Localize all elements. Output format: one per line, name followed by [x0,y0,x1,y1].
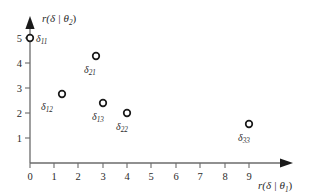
data-point-d21[interactable]: δ21 [84,53,99,78]
x-axis-title-body: (δ | θ [262,179,285,192]
x-tick-label-4: 4 [124,171,130,182]
marker-d12[interactable] [59,91,66,98]
y-axis-title-body: (δ | θ [46,12,69,25]
x-axis-group: 0 1 2 3 4 5 6 7 8 9 r(δ | θ1) [27,158,293,193]
x-axis-title-close: ) [289,179,293,192]
marker-d13[interactable] [100,100,107,107]
point-label-d13: δ13 [92,111,104,124]
marker-d22[interactable] [124,110,131,117]
x-axis-arrow-icon [280,158,293,167]
data-point-d22[interactable]: δ22 [116,110,130,135]
point-label-d12-sub: 12 [46,106,54,114]
y-axis-group: 5 4 3 2 1 r(δ | θ2) [17,12,77,163]
y-tick-label-3: 3 [17,83,22,94]
x-tick-label-2: 2 [75,171,80,182]
x-tick-label-7: 7 [197,171,202,182]
point-label-d21-sub: 21 [89,69,96,77]
point-label-d13-sub: 13 [97,116,105,124]
y-tick-label-1: 1 [17,133,22,144]
scatter-plot-figure: 5 4 3 2 1 r(δ | θ2) 0 1 [0,0,322,196]
marker-d33[interactable] [246,121,253,128]
x-tick-label-6: 6 [173,171,178,182]
x-tick-label-1: 1 [51,171,56,182]
point-label-d22-sub: 22 [121,126,129,134]
point-label-d12: δ12 [41,101,53,114]
x-tick-label-0: 0 [27,171,32,182]
marker-d21[interactable] [93,53,100,60]
y-axis-title-close: ) [73,12,77,25]
y-tick-label-4: 4 [17,58,23,69]
y-axis-title: r(δ | θ2) [42,12,77,27]
marker-d11[interactable] [27,35,34,42]
x-tick-label-3: 3 [100,171,105,182]
y-tick-label-2: 2 [17,108,22,119]
data-point-d33[interactable]: δ33 [238,121,252,146]
data-point-d13[interactable]: δ13 [92,100,106,125]
data-point-d12[interactable]: δ12 [41,91,65,115]
plot-canvas: 5 4 3 2 1 r(δ | θ2) 0 1 [0,0,322,196]
point-label-d21: δ21 [84,64,96,77]
x-tick-label-5: 5 [148,171,153,182]
point-label-d22: δ22 [116,121,128,134]
data-points-group: δ11 δ21 δ12 δ13 [27,33,253,145]
x-tick-label-8: 8 [222,171,227,182]
point-label-d11-sub: 11 [41,38,48,46]
x-tick-label-9: 9 [246,171,251,182]
y-tick-label-5: 5 [17,33,22,44]
y-axis-arrow-icon [25,16,34,29]
point-label-d11: δ11 [36,33,47,46]
x-axis-title: r(δ | θ1) [258,179,293,194]
point-label-d33-sub: 33 [242,137,251,145]
point-label-d33: δ33 [238,132,250,145]
